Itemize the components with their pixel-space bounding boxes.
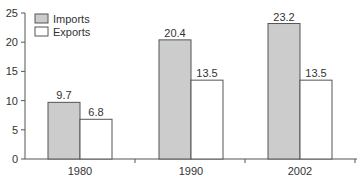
x-tick-label: 2002	[288, 165, 312, 177]
legend-swatch-exports	[35, 27, 48, 36]
x-tick-label: 1980	[68, 165, 92, 177]
data-label: 23.2	[273, 11, 294, 23]
legend: ImportsExports	[35, 13, 91, 38]
data-label: 9.7	[56, 89, 71, 101]
bar-exports-2002	[300, 80, 332, 159]
bar-exports-1990	[191, 80, 223, 159]
bar-imports-1980	[48, 102, 80, 159]
legend-label-exports: Exports	[53, 26, 91, 38]
data-label: 6.8	[88, 106, 103, 118]
y-tick-label: 0	[12, 153, 18, 165]
y-tick-label: 15	[6, 65, 18, 77]
bar-exports-1980	[80, 119, 112, 159]
bar-imports-2002	[268, 24, 300, 159]
legend-swatch-imports	[35, 14, 48, 23]
bar-imports-1990	[159, 40, 191, 159]
y-tick-label: 25	[6, 7, 18, 19]
data-label: 13.5	[196, 67, 217, 79]
data-label: 20.4	[164, 27, 185, 39]
legend-label-imports: Imports	[53, 13, 90, 25]
data-label: 13.5	[305, 67, 326, 79]
bars: 9.76.8198020.413.5199023.213.52002	[48, 11, 332, 177]
bar-chart: 0510152025 9.76.8198020.413.5199023.213.…	[0, 0, 361, 180]
y-tick-label: 10	[6, 95, 18, 107]
y-tick-label: 20	[6, 36, 18, 48]
y-tick-label: 5	[12, 124, 18, 136]
x-tick-label: 1990	[179, 165, 203, 177]
